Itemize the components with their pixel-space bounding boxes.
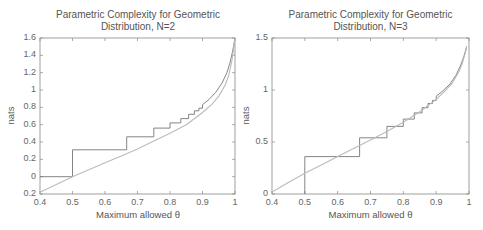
x-tick-label: 0.9 (427, 197, 445, 207)
y-tick-label: 0.8 (13, 101, 36, 111)
y-tick-label: 1.4 (13, 49, 36, 59)
y-tick-label: 1.6 (13, 32, 36, 42)
x-tick-label: 0.7 (362, 197, 380, 207)
x-tick-label: 0.8 (161, 197, 179, 207)
y-tick-label: 1 (245, 84, 268, 94)
y-tick-label: 0 (13, 171, 36, 181)
x-tick-label: 0.6 (329, 197, 347, 207)
series-smooth-line (272, 46, 467, 192)
x-tick-label: 0.9 (194, 197, 212, 207)
chart-left: Parametric Complexity for Geometric Dist… (0, 0, 241, 230)
x-tick-label: 0.5 (296, 197, 314, 207)
chart-right: Parametric Complexity for Geometric Dist… (241, 0, 483, 230)
plot-frame (272, 38, 469, 194)
chart-right-plot (241, 0, 483, 230)
plot-frame (40, 38, 235, 194)
x-tick-label: 0.4 (31, 197, 49, 207)
x-tick-label: 0.8 (394, 197, 412, 207)
y-tick-label: 0.6 (13, 119, 36, 129)
y-tick-label: 1.5 (245, 32, 268, 42)
y-tick-label: 1 (13, 84, 36, 94)
x-tick-label: 0.4 (263, 197, 281, 207)
y-tick-label: 0.2 (13, 188, 36, 198)
series-step-line (305, 46, 467, 194)
y-tick-label: 0.4 (13, 136, 36, 146)
x-tick-label: 1 (460, 197, 478, 207)
x-tick-label: 0.5 (64, 197, 82, 207)
chart-left-plot (0, 0, 241, 230)
x-tick-label: 0.6 (96, 197, 114, 207)
x-tick-label: 0.7 (129, 197, 147, 207)
y-tick-label: 1.2 (13, 67, 36, 77)
y-tick-label: 0.2 (13, 153, 36, 163)
y-tick-label: 0 (245, 188, 268, 198)
series-smooth-line (40, 38, 235, 192)
y-tick-label: 0.5 (245, 136, 268, 146)
series-step-line (40, 38, 235, 177)
